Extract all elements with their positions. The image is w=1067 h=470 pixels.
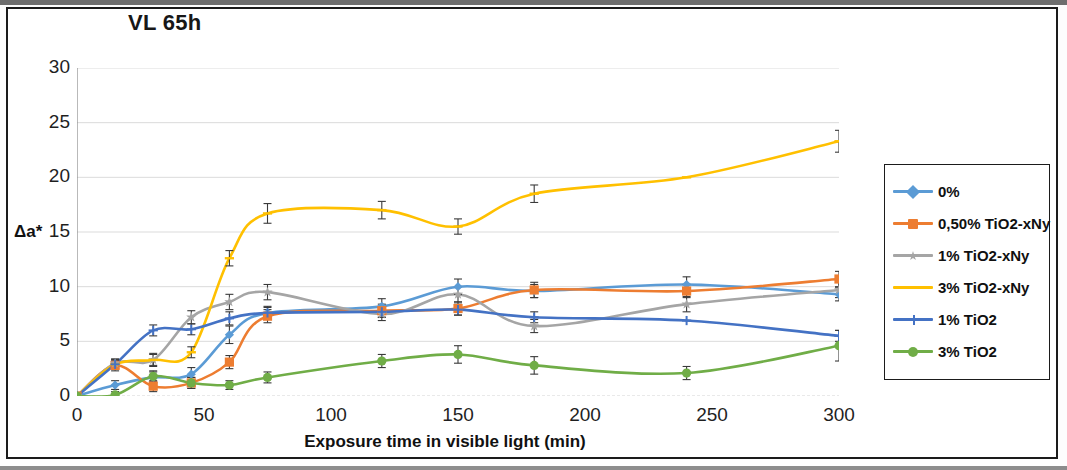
legend-swatch-icon [893, 280, 933, 294]
legend-item-5[interactable]: 1% TiO2 [893, 303, 1049, 335]
legend-item-3[interactable]: 1% TiO2-xNy [893, 239, 1049, 271]
legend-item-label: 3% TiO2 [938, 343, 997, 360]
chart-legend: 0%0,50% TiO2-xNy1% TiO2-xNy3% TiO2-xNy1%… [884, 164, 1050, 380]
plot-area [77, 68, 839, 396]
data-point-marker [187, 378, 196, 387]
data-point-marker [530, 361, 539, 370]
data-point-marker [682, 286, 691, 295]
x-tick-label: 300 [809, 404, 869, 426]
data-point-marker [225, 380, 234, 389]
data-point-marker [453, 350, 462, 359]
legend-item-1[interactable]: 0% [893, 175, 1049, 207]
legend-swatch-icon [893, 184, 933, 198]
data-point-marker [834, 341, 839, 350]
legend-swatch-icon [893, 216, 933, 230]
legend-item-label: 0% [938, 183, 960, 200]
x-tick-label: 50 [174, 404, 234, 426]
data-point-marker [530, 285, 539, 294]
legend-swatch-icon [893, 312, 933, 326]
x-tick-label: 250 [682, 404, 742, 426]
legend-item-6[interactable]: 3% TiO2 [893, 335, 1049, 367]
plot-svg [77, 68, 839, 396]
x-tick-label: 150 [428, 404, 488, 426]
legend-swatch-icon [893, 344, 933, 358]
data-point-marker [834, 274, 839, 283]
data-point-marker [263, 373, 272, 382]
chart-page: VL 65h Δa* Exposure time in visible ligh… [0, 0, 1067, 470]
data-point-marker [111, 380, 120, 389]
x-tick-label: 0 [47, 404, 107, 426]
legend-item-2[interactable]: 0,50% TiO2-xNy [893, 207, 1049, 239]
legend-item-label: 3% TiO2-xNy [938, 279, 1029, 296]
legend-item-label: 1% TiO2-xNy [938, 247, 1029, 264]
data-point-marker [377, 356, 386, 365]
data-point-marker [225, 358, 234, 367]
legend-item-label: 1% TiO2 [938, 311, 997, 328]
legend-item-label: 0,50% TiO2-xNy [938, 215, 1050, 232]
x-tick-label: 200 [555, 404, 615, 426]
legend-item-4[interactable]: 3% TiO2-xNy [893, 271, 1049, 303]
legend-swatch-icon [893, 248, 933, 262]
x-tick-label: 100 [301, 404, 361, 426]
data-point-marker [149, 382, 158, 391]
data-point-marker [149, 372, 158, 381]
data-point-marker [682, 368, 691, 377]
